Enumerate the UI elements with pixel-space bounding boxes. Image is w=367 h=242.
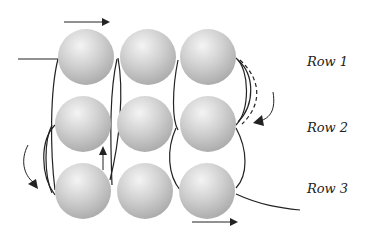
arrow-right-icon [192, 218, 238, 226]
bead [58, 29, 114, 85]
arrow-curved-down-right-icon [24, 145, 38, 189]
bead [180, 96, 236, 152]
bead [55, 163, 111, 219]
bead [180, 29, 236, 85]
bead [117, 163, 173, 219]
bead [55, 96, 111, 152]
bead [117, 96, 173, 152]
bead [120, 29, 176, 85]
arrow-right-icon [64, 18, 110, 26]
bead [179, 163, 235, 219]
row-label-2: Row 2 [307, 120, 348, 135]
row-label-3: Row 3 [307, 181, 348, 196]
row-label-1: Row 1 [307, 54, 348, 69]
arrow-up-icon [99, 146, 107, 170]
bead-grid [55, 29, 236, 219]
